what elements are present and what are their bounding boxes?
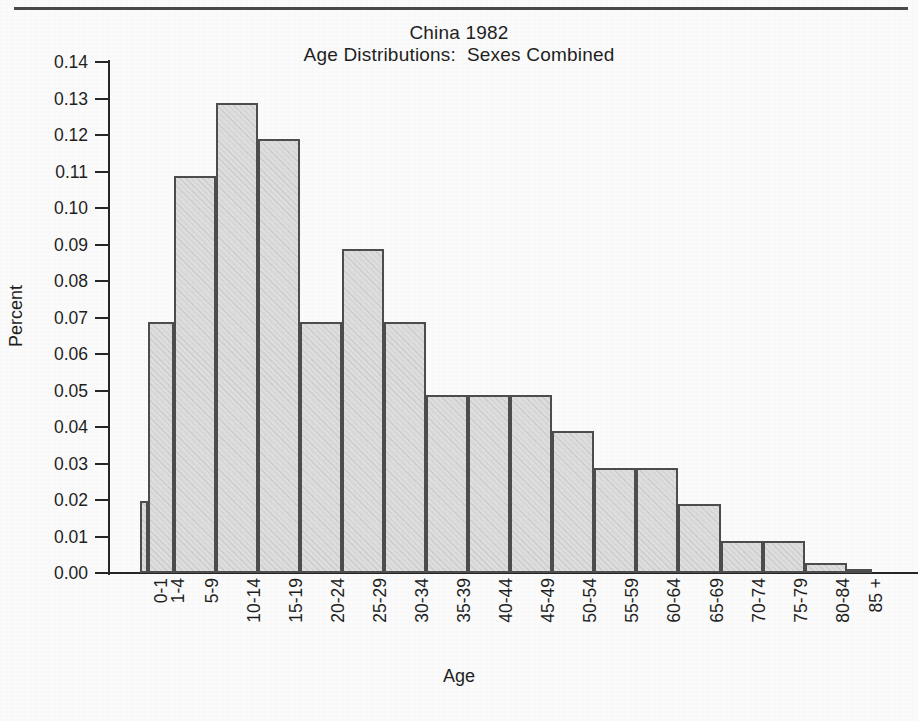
bar bbox=[384, 322, 426, 573]
y-axis-tick-label: 0.10 bbox=[33, 198, 88, 219]
bar bbox=[216, 103, 258, 573]
y-axis-line bbox=[108, 60, 110, 575]
bar bbox=[678, 504, 720, 573]
y-axis-title: Percent bbox=[6, 285, 27, 347]
y-axis-tick-label: 0.13 bbox=[33, 89, 88, 110]
y-axis-tick bbox=[95, 353, 108, 355]
bar bbox=[468, 395, 510, 573]
y-axis-tick-label: 0.04 bbox=[33, 417, 88, 438]
x-axis-tick-label: 10-14 bbox=[244, 578, 265, 623]
bar bbox=[636, 468, 678, 573]
x-axis-tick-label: 55-59 bbox=[622, 578, 643, 623]
bar bbox=[140, 501, 148, 573]
y-axis-tick-label: 0.00 bbox=[33, 563, 88, 584]
y-axis-tick-label: 0.12 bbox=[33, 125, 88, 146]
bar bbox=[552, 431, 594, 573]
x-axis-tick-label: 50-54 bbox=[580, 578, 601, 623]
y-axis-tick bbox=[95, 390, 108, 392]
bar bbox=[258, 139, 300, 573]
y-axis-tick bbox=[95, 171, 108, 173]
bar bbox=[148, 322, 173, 573]
bar bbox=[342, 249, 384, 573]
y-axis-tick bbox=[95, 572, 108, 574]
figure-canvas: China 1982 Age Distributions: Sexes Comb… bbox=[0, 0, 918, 721]
y-axis-tick bbox=[95, 207, 108, 209]
bar bbox=[805, 563, 847, 573]
y-axis-tick bbox=[95, 463, 108, 465]
x-axis-tick-label: 45-49 bbox=[538, 578, 559, 623]
bar bbox=[300, 322, 342, 573]
bar bbox=[763, 541, 805, 573]
chart-title-line-1: China 1982 bbox=[0, 22, 918, 44]
x-axis-tick-label: 80-84 bbox=[833, 578, 854, 623]
x-axis-tick-label: 30-34 bbox=[412, 578, 433, 623]
page-top-rule bbox=[14, 7, 908, 10]
bar-series bbox=[140, 62, 872, 573]
y-axis-tick-label: 0.06 bbox=[33, 344, 88, 365]
y-axis-tick-label: 0.07 bbox=[33, 308, 88, 329]
bar bbox=[174, 176, 216, 573]
y-axis-tick bbox=[95, 499, 108, 501]
y-axis-tick bbox=[95, 280, 108, 282]
y-axis-tick bbox=[95, 244, 108, 246]
y-axis-tick bbox=[95, 426, 108, 428]
y-axis-tick-label: 0.09 bbox=[33, 235, 88, 256]
x-axis-tick-label: 85 + bbox=[866, 578, 887, 613]
y-axis-tick bbox=[95, 98, 108, 100]
bar bbox=[594, 468, 636, 573]
x-axis-tick-labels: 0-11-45-910-1415-1920-2425-2930-3435-394… bbox=[140, 578, 872, 658]
x-axis-tick-label: 65-69 bbox=[707, 578, 728, 623]
x-axis-tick-label: 15-19 bbox=[286, 578, 307, 623]
bar bbox=[721, 541, 763, 573]
x-axis-title: Age bbox=[0, 666, 918, 687]
x-axis-tick-label: 75-79 bbox=[791, 578, 812, 623]
x-axis-tick-label: 40-44 bbox=[496, 578, 517, 623]
y-axis-tick-label: 0.02 bbox=[33, 490, 88, 511]
y-axis-tick-label: 0.01 bbox=[33, 527, 88, 548]
y-axis-tick-label: 0.14 bbox=[33, 52, 88, 73]
y-axis-tick-label: 0.03 bbox=[33, 454, 88, 475]
x-axis-tick-label: 5-9 bbox=[202, 578, 223, 603]
x-axis-tick-label: 25-29 bbox=[370, 578, 391, 623]
y-axis-tick bbox=[95, 317, 108, 319]
bar bbox=[510, 395, 552, 573]
y-axis-tick bbox=[95, 134, 108, 136]
x-axis-tick-label: 1-4 bbox=[168, 578, 189, 603]
y-axis-tick bbox=[95, 61, 108, 63]
y-axis-tick bbox=[95, 536, 108, 538]
bar bbox=[847, 569, 872, 573]
y-axis-tick-label: 0.11 bbox=[33, 162, 88, 183]
x-axis-tick-label: 70-74 bbox=[749, 578, 770, 623]
x-axis-tick-label: 20-24 bbox=[328, 578, 349, 623]
x-axis-tick-label: 35-39 bbox=[454, 578, 475, 623]
chart-title-block: China 1982 Age Distributions: Sexes Comb… bbox=[0, 22, 918, 66]
x-axis-tick-label: 60-64 bbox=[664, 578, 685, 623]
y-axis-tick-label: 0.05 bbox=[33, 381, 88, 402]
y-axis-tick-label: 0.08 bbox=[33, 271, 88, 292]
bar bbox=[426, 395, 468, 573]
